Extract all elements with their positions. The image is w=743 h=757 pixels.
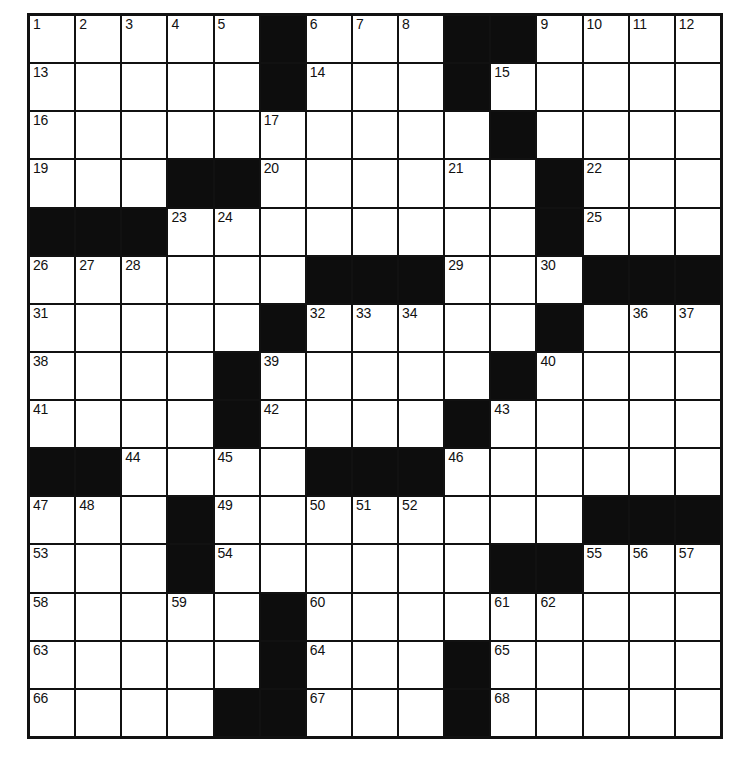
letter-cell[interactable]: 40 xyxy=(537,353,581,399)
letter-cell[interactable]: 8 xyxy=(399,16,443,62)
letter-cell[interactable]: 11 xyxy=(630,16,674,62)
letter-cell[interactable] xyxy=(399,690,443,736)
letter-cell[interactable]: 66 xyxy=(30,690,74,736)
letter-cell[interactable] xyxy=(215,305,259,351)
letter-cell[interactable] xyxy=(676,594,720,640)
letter-cell[interactable] xyxy=(353,642,397,688)
letter-cell[interactable] xyxy=(307,401,351,447)
letter-cell[interactable] xyxy=(584,64,628,110)
letter-cell[interactable]: 19 xyxy=(30,160,74,206)
letter-cell[interactable]: 15 xyxy=(491,64,535,110)
letter-cell[interactable] xyxy=(445,497,489,543)
letter-cell[interactable]: 4 xyxy=(168,16,212,62)
letter-cell[interactable] xyxy=(215,642,259,688)
letter-cell[interactable] xyxy=(76,594,120,640)
letter-cell[interactable] xyxy=(537,112,581,158)
letter-cell[interactable] xyxy=(537,64,581,110)
letter-cell[interactable]: 6 xyxy=(307,16,351,62)
letter-cell[interactable] xyxy=(630,690,674,736)
letter-cell[interactable] xyxy=(399,642,443,688)
letter-cell[interactable] xyxy=(168,257,212,303)
letter-cell[interactable]: 39 xyxy=(261,353,305,399)
letter-cell[interactable] xyxy=(584,353,628,399)
letter-cell[interactable] xyxy=(399,209,443,255)
letter-cell[interactable]: 17 xyxy=(261,112,305,158)
letter-cell[interactable]: 26 xyxy=(30,257,74,303)
letter-cell[interactable] xyxy=(630,642,674,688)
letter-cell[interactable]: 64 xyxy=(307,642,351,688)
letter-cell[interactable]: 25 xyxy=(584,209,628,255)
letter-cell[interactable] xyxy=(353,160,397,206)
letter-cell[interactable] xyxy=(307,209,351,255)
letter-cell[interactable]: 36 xyxy=(630,305,674,351)
letter-cell[interactable] xyxy=(122,545,166,591)
letter-cell[interactable]: 61 xyxy=(491,594,535,640)
letter-cell[interactable] xyxy=(307,160,351,206)
letter-cell[interactable]: 29 xyxy=(445,257,489,303)
letter-cell[interactable]: 9 xyxy=(537,16,581,62)
letter-cell[interactable] xyxy=(676,642,720,688)
letter-cell[interactable] xyxy=(122,160,166,206)
letter-cell[interactable] xyxy=(537,497,581,543)
letter-cell[interactable] xyxy=(353,353,397,399)
letter-cell[interactable] xyxy=(76,353,120,399)
letter-cell[interactable] xyxy=(76,112,120,158)
letter-cell[interactable] xyxy=(307,112,351,158)
letter-cell[interactable]: 7 xyxy=(353,16,397,62)
letter-cell[interactable] xyxy=(353,112,397,158)
letter-cell[interactable] xyxy=(261,497,305,543)
letter-cell[interactable] xyxy=(584,594,628,640)
letter-cell[interactable] xyxy=(353,690,397,736)
letter-cell[interactable] xyxy=(630,64,674,110)
letter-cell[interactable] xyxy=(76,690,120,736)
letter-cell[interactable] xyxy=(445,209,489,255)
letter-cell[interactable] xyxy=(168,64,212,110)
letter-cell[interactable] xyxy=(122,642,166,688)
letter-cell[interactable] xyxy=(445,353,489,399)
letter-cell[interactable] xyxy=(630,209,674,255)
letter-cell[interactable] xyxy=(491,449,535,495)
letter-cell[interactable] xyxy=(122,353,166,399)
letter-cell[interactable]: 41 xyxy=(30,401,74,447)
letter-cell[interactable] xyxy=(630,112,674,158)
letter-cell[interactable]: 59 xyxy=(168,594,212,640)
letter-cell[interactable]: 48 xyxy=(76,497,120,543)
letter-cell[interactable] xyxy=(168,401,212,447)
letter-cell[interactable] xyxy=(122,497,166,543)
letter-cell[interactable] xyxy=(307,353,351,399)
letter-cell[interactable]: 68 xyxy=(491,690,535,736)
letter-cell[interactable]: 34 xyxy=(399,305,443,351)
letter-cell[interactable] xyxy=(676,160,720,206)
letter-cell[interactable] xyxy=(168,353,212,399)
letter-cell[interactable] xyxy=(676,353,720,399)
letter-cell[interactable] xyxy=(261,257,305,303)
letter-cell[interactable] xyxy=(215,112,259,158)
letter-cell[interactable] xyxy=(122,690,166,736)
letter-cell[interactable]: 32 xyxy=(307,305,351,351)
letter-cell[interactable]: 24 xyxy=(215,209,259,255)
letter-cell[interactable] xyxy=(676,401,720,447)
letter-cell[interactable] xyxy=(584,449,628,495)
letter-cell[interactable] xyxy=(399,594,443,640)
letter-cell[interactable]: 65 xyxy=(491,642,535,688)
letter-cell[interactable] xyxy=(122,305,166,351)
letter-cell[interactable]: 30 xyxy=(537,257,581,303)
letter-cell[interactable]: 3 xyxy=(122,16,166,62)
letter-cell[interactable] xyxy=(215,257,259,303)
letter-cell[interactable]: 57 xyxy=(676,545,720,591)
letter-cell[interactable]: 49 xyxy=(215,497,259,543)
letter-cell[interactable] xyxy=(584,642,628,688)
letter-cell[interactable] xyxy=(676,112,720,158)
letter-cell[interactable] xyxy=(215,594,259,640)
letter-cell[interactable] xyxy=(537,642,581,688)
letter-cell[interactable]: 27 xyxy=(76,257,120,303)
letter-cell[interactable] xyxy=(122,64,166,110)
letter-cell[interactable]: 67 xyxy=(307,690,351,736)
letter-cell[interactable]: 23 xyxy=(168,209,212,255)
letter-cell[interactable] xyxy=(537,401,581,447)
letter-cell[interactable] xyxy=(537,449,581,495)
letter-cell[interactable]: 50 xyxy=(307,497,351,543)
letter-cell[interactable] xyxy=(491,497,535,543)
letter-cell[interactable] xyxy=(584,690,628,736)
letter-cell[interactable] xyxy=(584,401,628,447)
